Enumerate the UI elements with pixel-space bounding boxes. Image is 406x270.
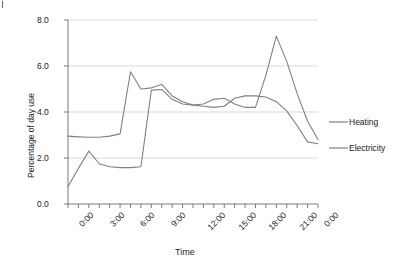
plot-area	[0, 0, 406, 270]
series-line-electricity	[68, 89, 318, 186]
series-line-heating	[68, 36, 318, 140]
chart-container: Percentage of day use Time 8.0 6.0 4.0 2…	[0, 0, 406, 270]
